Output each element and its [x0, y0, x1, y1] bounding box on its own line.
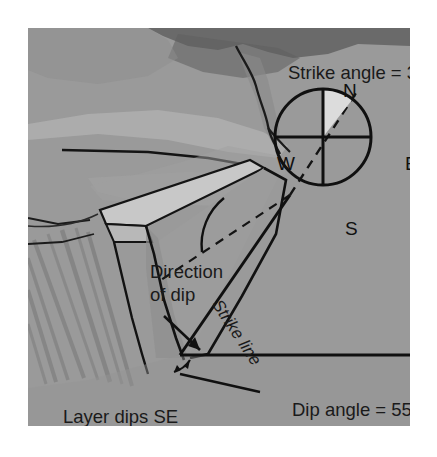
geology-block-diagram: Strike angle = 38° Dip angle = 55° Layer… — [28, 28, 410, 426]
direction-of-dip-line-1: Direction — [150, 261, 223, 282]
direction-of-dip-label: Direction of dip — [150, 260, 223, 306]
layer-dips-se-label: Layer dips SE — [63, 406, 178, 426]
dip-angle-label: Dip angle = 55° — [292, 399, 410, 421]
compass-west-label: W — [277, 153, 295, 175]
compass-east-label: E — [405, 153, 410, 175]
compass-north-label: N — [343, 80, 357, 102]
compass-south-label: S — [345, 218, 358, 240]
direction-of-dip-line-2: of dip — [150, 284, 195, 305]
figure-page: Strike angle = 38° Dip angle = 55° Layer… — [0, 0, 437, 457]
